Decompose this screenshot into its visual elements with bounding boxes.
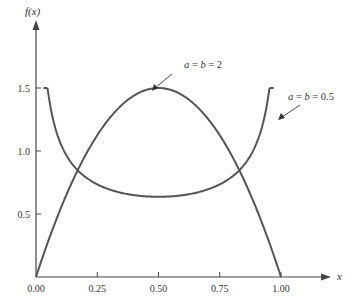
y-ticks: 0.51.01.5 xyxy=(18,83,42,220)
beta-density-chart: 0.000.250.500.751.00 0.51.01.5 f(x) x a … xyxy=(0,0,359,307)
x-tick-label: 0.75 xyxy=(211,283,229,294)
y-axis-label: f(x) xyxy=(25,5,41,18)
annotation-ab2-label: a = b = 2 xyxy=(184,59,222,70)
annotation-ab2-arrow-icon xyxy=(155,74,172,88)
x-tick-label: 0.50 xyxy=(150,283,168,294)
x-tick-label: 1.00 xyxy=(272,283,290,294)
y-tick-label: 1.5 xyxy=(18,83,31,94)
x-axis-label: x xyxy=(336,270,342,282)
y-axis-arrow-icon xyxy=(33,20,40,30)
annotation-ab05-label: a = b = 0.5 xyxy=(288,91,334,102)
annotation-ab05-arrow-icon xyxy=(282,105,300,117)
curves xyxy=(36,88,281,277)
annotation-ab2: a = b = 2 xyxy=(152,59,222,91)
annotation-ab05-arrowhead-icon xyxy=(278,113,285,120)
curve-a-b-0-5 xyxy=(47,88,269,197)
x-ticks: 0.000.250.500.751.00 xyxy=(27,272,290,294)
x-axis-arrow-icon xyxy=(321,274,331,281)
y-tick-label: 0.5 xyxy=(18,209,31,220)
curve-a-b-2 xyxy=(36,88,281,277)
x-tick-label: 0.25 xyxy=(89,283,107,294)
annotation-ab05: a = b = 0.5 xyxy=(278,91,334,120)
x-tick-label: 0.00 xyxy=(27,283,45,294)
axes xyxy=(36,28,323,277)
y-tick-label: 1.0 xyxy=(18,146,31,157)
